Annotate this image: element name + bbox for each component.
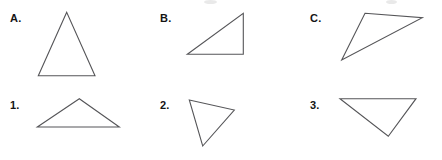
triangle-2 <box>189 100 234 146</box>
triangle-c <box>342 13 423 60</box>
triangle-1 <box>37 99 119 127</box>
triangle-b <box>187 13 243 54</box>
triangle-figures-group <box>0 0 442 160</box>
triangle-a <box>38 12 95 75</box>
worksheet-canvas: A. B. C. 1. 2. 3. <box>0 0 442 160</box>
triangle-3 <box>340 99 416 137</box>
